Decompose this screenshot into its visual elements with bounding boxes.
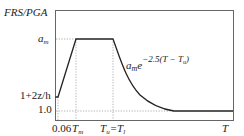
tick-tm: Tm xyxy=(72,122,83,136)
tick-006: 0.06 xyxy=(52,122,72,134)
spectrum-curve xyxy=(56,39,234,111)
x-axis-label: T xyxy=(222,122,229,134)
tick-1plus2zh: 1+2z/h xyxy=(20,89,51,101)
tick-am: am xyxy=(38,32,49,46)
tick-tu-tl: Tu=Tl xyxy=(100,122,125,136)
tick-1: 1.0 xyxy=(38,103,52,115)
plot-frame xyxy=(56,11,234,121)
frs-diagram: FRS/PGA am 1+2z/h 1.0 0.06 Tm Tu=Tl T am… xyxy=(0,0,244,136)
y-axis-label: FRS/PGA xyxy=(3,6,48,18)
curve-formula: ame−2.5(T − Tu) xyxy=(126,54,189,73)
